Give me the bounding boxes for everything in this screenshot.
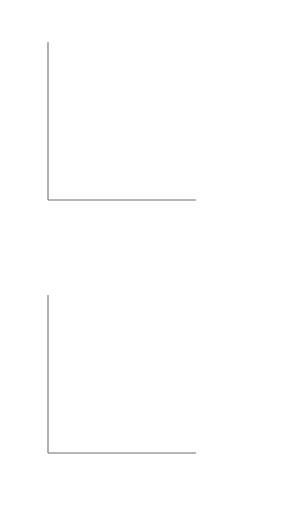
chart-svg-negative: [0, 248, 306, 507]
kaplan-meier-figure: [0, 0, 306, 507]
chart-panel-negative: [0, 248, 306, 507]
chart-svg-positive: [0, 0, 306, 248]
chart-panel-positive: [0, 0, 306, 248]
